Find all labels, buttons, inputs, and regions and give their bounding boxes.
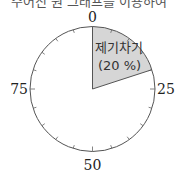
scale-tick xyxy=(127,137,129,140)
scale-tick xyxy=(33,70,36,71)
slice-percent-label: (20 %) xyxy=(98,58,141,73)
pie-chart: 0 25 50 75 제기차기 (20 %) xyxy=(0,0,178,180)
scale-tick xyxy=(111,145,112,148)
scale-tick xyxy=(56,137,58,140)
scale-tick xyxy=(56,38,58,41)
scale-tick xyxy=(73,30,74,33)
scale-tick xyxy=(140,124,143,126)
scale-label-50: 50 xyxy=(84,157,102,173)
scale-label-75: 75 xyxy=(10,81,28,97)
scale-tick xyxy=(33,107,36,108)
scale-tick xyxy=(73,145,74,148)
scale-tick xyxy=(42,52,45,54)
scale-label-0: 0 xyxy=(88,9,97,25)
scale-label-25: 25 xyxy=(157,81,175,97)
slice-name-label: 제기차기 xyxy=(95,40,143,55)
scale-tick xyxy=(149,107,152,108)
scale-tick xyxy=(42,124,45,126)
